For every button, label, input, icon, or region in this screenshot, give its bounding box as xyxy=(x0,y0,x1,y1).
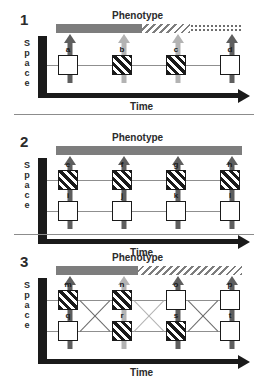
genotype-box-label: r xyxy=(112,312,132,320)
genotype-box-label: h xyxy=(220,161,240,169)
genotype-box xyxy=(112,321,132,341)
genotype-box xyxy=(220,321,240,341)
phenotype-bar xyxy=(56,24,242,33)
time-axis-arrowhead xyxy=(238,89,250,103)
genotype-box-label: p xyxy=(220,281,240,289)
panel-3: 3PhenotypeSpaceTimemnopqrst xyxy=(0,232,268,356)
space-letter: p xyxy=(24,48,30,58)
phenotype-bar xyxy=(56,146,242,155)
arrow-head xyxy=(64,34,76,43)
genotype-box xyxy=(166,290,186,310)
genotype-box xyxy=(166,321,186,341)
genotype-box-label: m xyxy=(58,281,78,289)
genotype-box xyxy=(166,55,186,75)
space-axis xyxy=(38,158,47,239)
genotype-box-label: e xyxy=(58,161,78,169)
genotype-box-label: q xyxy=(58,312,78,320)
genotype-box xyxy=(112,170,132,190)
phenotype-segment-dot xyxy=(190,24,242,33)
arrow-head xyxy=(118,34,130,43)
panel-separator xyxy=(14,114,254,115)
panel-separator xyxy=(14,234,254,235)
genotype-box-label: j xyxy=(112,192,132,200)
space-letter: a xyxy=(25,180,30,190)
space-letter: c xyxy=(25,310,30,320)
space-letter: c xyxy=(25,190,30,200)
time-axis-label: Time xyxy=(130,102,153,112)
genotype-box xyxy=(112,55,132,75)
phenotype-label: Phenotype xyxy=(112,11,163,21)
phenotype-bar xyxy=(56,266,242,275)
genotype-box-label: i xyxy=(58,192,78,200)
panel-number: 3 xyxy=(20,254,28,269)
space-letter: e xyxy=(25,200,30,210)
genotype-box-label: c xyxy=(166,46,186,54)
phenotype-label: Phenotype xyxy=(112,133,163,143)
genotype-box-label: f xyxy=(112,161,132,169)
genotype-box-label: l xyxy=(220,192,240,200)
genotype-box xyxy=(58,290,78,310)
genotype-box-label: o xyxy=(166,281,186,289)
space-letter: p xyxy=(24,290,30,300)
genotype-box xyxy=(220,55,240,75)
genotype-box xyxy=(220,201,240,221)
phenotype-segment-solid xyxy=(56,24,142,33)
genotype-box xyxy=(166,170,186,190)
time-axis-shaft xyxy=(38,359,238,364)
space-axis xyxy=(38,36,47,93)
genotype-box-label: s xyxy=(166,312,186,320)
panel-2: 2PhenotypeSpaceTimeefghijkl xyxy=(0,112,268,232)
genotype-box xyxy=(166,201,186,221)
genotype-box xyxy=(58,321,78,341)
genotype-box-label: g xyxy=(166,161,186,169)
genotype-box-label: k xyxy=(166,192,186,200)
space-axis xyxy=(38,278,47,359)
space-letter: p xyxy=(24,170,30,180)
phenotype-segment-hatch xyxy=(138,266,242,275)
genotype-box xyxy=(220,170,240,190)
space-letter: e xyxy=(25,320,30,330)
panel-1: 1PhenotypeSpaceTimeabcd xyxy=(0,0,268,112)
genotype-box-label: n xyxy=(112,281,132,289)
arrow-head xyxy=(172,34,184,43)
time-axis-shaft xyxy=(38,93,238,98)
space-axis-label: Space xyxy=(24,280,30,330)
time-axis-label: Time xyxy=(130,368,153,378)
phenotype-segment-solid xyxy=(56,266,138,275)
genotype-box-label: b xyxy=(112,46,132,54)
genotype-box-label: t xyxy=(220,312,240,320)
space-letter: a xyxy=(25,58,30,68)
space-letter: S xyxy=(24,280,30,290)
space-letter: S xyxy=(24,38,30,48)
phenotype-segment-hatch xyxy=(142,24,190,33)
genotype-box-label: d xyxy=(220,46,240,54)
space-letter: e xyxy=(25,78,30,88)
space-letter: a xyxy=(25,300,30,310)
genotype-box xyxy=(112,290,132,310)
panel-number: 2 xyxy=(20,134,28,149)
space-letter: c xyxy=(25,68,30,78)
genotype-box xyxy=(58,55,78,75)
genotype-box xyxy=(58,201,78,221)
phenotype-segment-solid xyxy=(56,146,242,155)
genotype-box xyxy=(112,201,132,221)
space-axis-label: Space xyxy=(24,38,30,88)
space-axis-label: Space xyxy=(24,160,30,210)
arrow-head xyxy=(226,34,238,43)
genotype-box xyxy=(220,290,240,310)
space-letter: S xyxy=(24,160,30,170)
time-axis-arrowhead xyxy=(238,355,250,369)
genotype-box xyxy=(58,170,78,190)
genotype-box-label: a xyxy=(58,46,78,54)
panel-number: 1 xyxy=(20,12,28,27)
phenotype-label: Phenotype xyxy=(112,253,163,263)
